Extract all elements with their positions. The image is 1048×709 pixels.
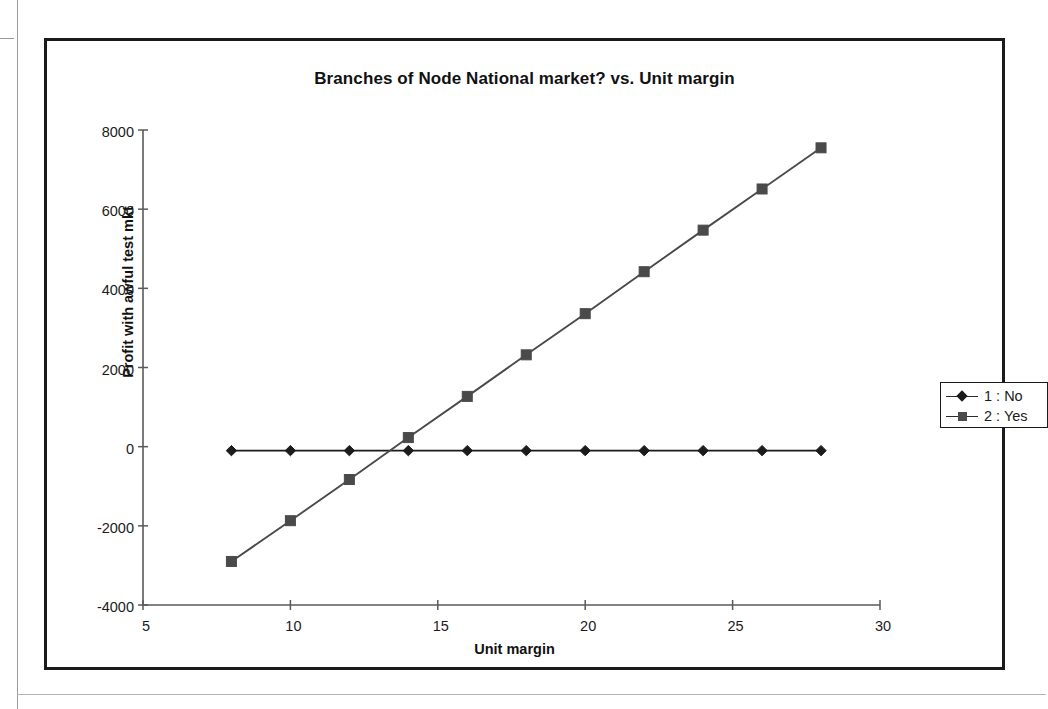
data-point-marker (403, 445, 413, 455)
data-point-marker (816, 445, 826, 455)
data-point-marker (816, 143, 826, 153)
data-point-marker (698, 445, 708, 455)
page-bottom-rule (17, 694, 1046, 695)
data-point-marker (226, 445, 236, 455)
data-point-marker (462, 445, 472, 455)
data-point-marker (698, 225, 708, 235)
data-point-marker (580, 445, 590, 455)
data-point-marker (344, 445, 354, 455)
page-edge-line (17, 0, 18, 709)
plot-area (44, 38, 1005, 670)
data-point-marker (757, 445, 767, 455)
data-point-marker (521, 445, 531, 455)
data-point-marker (344, 475, 354, 485)
page-edge-tick (0, 38, 14, 39)
data-point-marker (757, 184, 767, 194)
data-point-marker (285, 445, 295, 455)
data-point-marker (226, 556, 236, 566)
data-point-marker (580, 309, 590, 319)
data-point-marker (285, 516, 295, 526)
data-point-marker (639, 267, 649, 277)
data-point-marker (403, 433, 413, 443)
data-point-marker (462, 391, 472, 401)
data-point-marker (521, 350, 531, 360)
data-point-marker (639, 445, 649, 455)
